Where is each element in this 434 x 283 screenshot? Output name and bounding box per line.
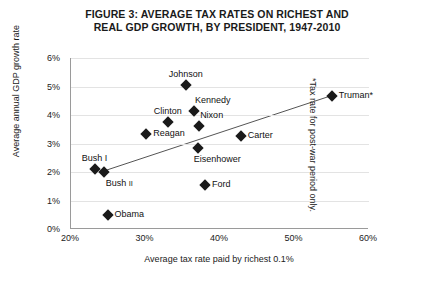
chart-title-line-2: REAL GDP GROWTH, BY PRESIDENT, 1947-2010 <box>47 21 387 34</box>
gridline-y <box>71 58 369 59</box>
y-tick-label: 2% <box>20 167 60 177</box>
x-tick-label: 30% <box>125 233 165 243</box>
y-tick-label: 5% <box>20 82 60 92</box>
data-point-label: Johnson <box>169 69 203 79</box>
data-point-label: Kennedy <box>195 95 231 105</box>
y-tick-label: 6% <box>20 53 60 63</box>
gridline-y <box>71 144 369 145</box>
y-tick-label: 4% <box>20 110 60 120</box>
plot-area: JohnsonKennedyTruman*ClintonNixonReaganC… <box>70 58 368 229</box>
data-point-label: Reagan <box>153 128 185 138</box>
data-point-label: Obama <box>115 209 145 219</box>
chart-title: FIGURE 3: AVERAGE TAX RATES ON RICHEST A… <box>47 8 387 34</box>
gridline-y <box>71 172 369 173</box>
chart-title-line-1: FIGURE 3: AVERAGE TAX RATES ON RICHEST A… <box>47 8 387 21</box>
gridline-y <box>71 87 369 88</box>
y-tick-label: 1% <box>20 196 60 206</box>
y-tick-label: 3% <box>20 139 60 149</box>
gridline-y <box>71 201 369 202</box>
data-point-label: Clinton <box>154 106 182 116</box>
data-point-label: Bush I <box>82 153 108 163</box>
figure-scatter-tax-vs-gdp: FIGURE 3: AVERAGE TAX RATES ON RICHEST A… <box>0 0 434 283</box>
x-tick-label: 60% <box>348 233 388 243</box>
data-point-label: Truman* <box>339 90 373 100</box>
x-axis-label: Average tax rate paid by richest 0.1% <box>70 254 368 264</box>
x-tick-label: 20% <box>50 233 90 243</box>
y-axis-label: Average annual GDP growth rate <box>11 0 21 191</box>
footnote-text: *Tax rate for post-war period only. <box>308 78 318 268</box>
data-point-label: Nixon <box>200 110 223 120</box>
data-point-label: Ford <box>212 179 231 189</box>
x-tick-label: 40% <box>199 233 239 243</box>
data-point-label: Bush II <box>106 178 133 189</box>
data-point-label: Eisenhower <box>194 154 241 164</box>
data-point-label: Carter <box>248 130 273 140</box>
